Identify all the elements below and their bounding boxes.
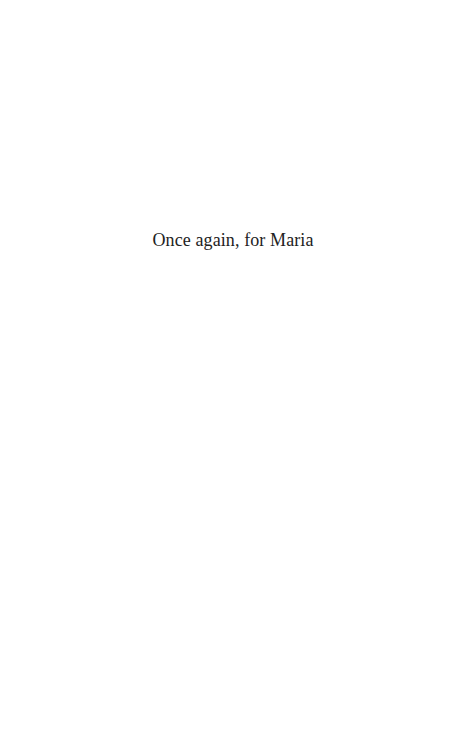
book-page: Once again, for Maria [0, 0, 473, 754]
dedication-text: Once again, for Maria [0, 229, 466, 251]
